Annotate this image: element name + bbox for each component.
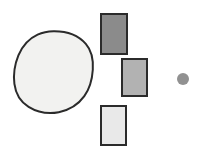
blob-shape[interactable]: [14, 31, 93, 113]
rect-top-shape[interactable]: [101, 14, 127, 54]
dot-shape[interactable]: [177, 73, 189, 85]
figure-canvas: large irregular circle dark gray rectang…: [0, 0, 198, 156]
shapes-svg: [0, 0, 198, 156]
rect-middle-shape[interactable]: [122, 59, 147, 96]
rect-bottom-shape[interactable]: [101, 106, 126, 145]
